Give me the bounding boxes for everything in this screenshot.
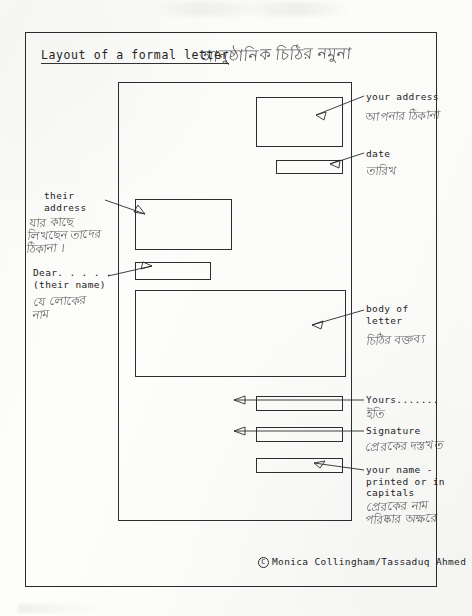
annotation-date: date <box>366 148 390 160</box>
yours-box <box>256 396 343 411</box>
scan-artifact-bottom <box>18 604 108 613</box>
copyright-icon: C <box>258 557 269 568</box>
annotation-their-address: their address <box>44 190 87 213</box>
annotation-your-name-bengali: প্রেরকের নাম পরিষ্কার অক্ষরে <box>364 499 439 527</box>
date-box <box>276 160 343 174</box>
annotation-their-address-bengali: যার কাছে লিখছেন তাদের ঠিকানা । <box>26 215 103 256</box>
body-box <box>135 290 346 377</box>
annotation-yours: Yours....... <box>366 394 439 406</box>
your-address-box <box>256 97 343 147</box>
page-title-bengali: আনুষ্ঠানিক চিঠির নমুনা <box>198 40 352 70</box>
annotation-body: body of letter <box>366 303 409 326</box>
annotation-yours-bengali: ইতি <box>365 408 385 421</box>
annotation-salutation: Dear. . . . . (their name) <box>33 267 112 290</box>
letter-page-outline <box>118 82 352 521</box>
your-name-box <box>256 458 343 473</box>
annotation-date-bengali: তারিখ <box>365 165 397 179</box>
annotation-your-address: your address <box>366 91 439 103</box>
signature-box <box>256 427 343 442</box>
credit-line: CMonica Collingham/Tassaduq Ahmed <box>258 556 466 568</box>
annotation-your-address-bengali: আপনার ঠিকানা <box>365 109 440 124</box>
annotation-body-bengali: চিঠির বক্তব্য <box>365 333 424 348</box>
credit-text: Monica Collingham/Tassaduq Ahmed <box>272 556 466 567</box>
their-address-box <box>135 199 232 250</box>
annotation-your-name: your name - printed or in capitals <box>366 464 445 499</box>
annotation-salutation-bengali: যে লোকের নাম <box>31 294 87 321</box>
salutation-box <box>135 262 211 280</box>
annotation-signature: Signature <box>366 425 421 437</box>
scan-artifact-top <box>150 2 350 16</box>
annotation-signature-bengali: প্রেরকের দস্তখত <box>365 439 444 454</box>
scanned-page: Layout of a formal letter আনুষ্ঠানিক চিঠ… <box>0 0 472 616</box>
